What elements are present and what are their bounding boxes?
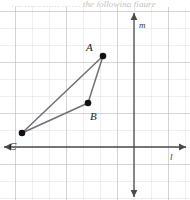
cropped-caption-text: …. …… …… … … the following figure <box>0 0 190 7</box>
geometry-layer <box>0 7 190 200</box>
point-a-dot <box>100 53 107 60</box>
geometry-figure: …. …… …… … … the following figure <box>0 0 190 200</box>
point-c-dot <box>19 130 26 137</box>
axis-label-l: l <box>170 153 173 162</box>
axis-label-m: m <box>139 21 146 30</box>
point-label-a: A <box>86 42 93 53</box>
axis-horizontal-l <box>4 144 186 151</box>
point-label-c: C <box>9 141 16 152</box>
point-b-dot <box>85 100 92 107</box>
plot-area: A B C m l <box>0 7 190 200</box>
axis-vertical-m <box>131 13 138 197</box>
segment-bc <box>22 103 88 133</box>
point-label-b: B <box>90 111 97 122</box>
